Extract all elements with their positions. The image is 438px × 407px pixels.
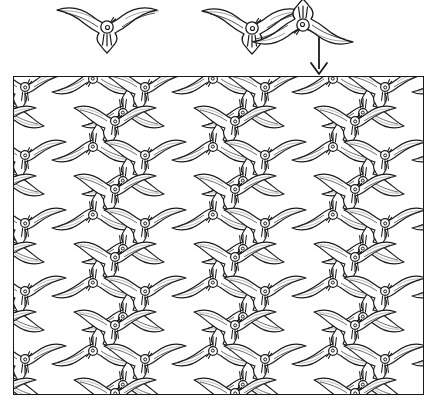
figure-root <box>0 0 438 407</box>
legend-single-bird <box>55 4 165 56</box>
down-arrow-icon <box>297 36 341 76</box>
tessellation-panel <box>13 76 424 395</box>
tessellation-canvas <box>14 77 423 394</box>
bird-motif <box>57 8 159 53</box>
